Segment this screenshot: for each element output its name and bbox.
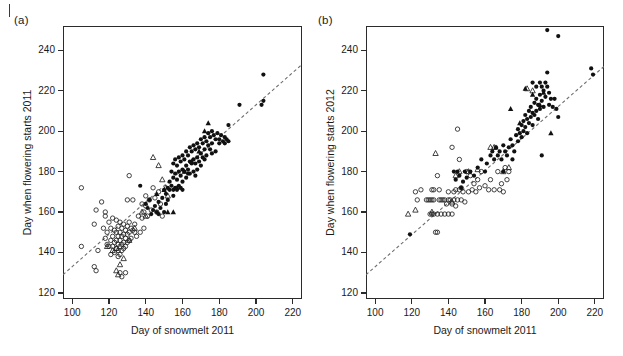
data-point-filled-circle xyxy=(226,123,230,127)
y-tick-label: 240 xyxy=(332,44,358,55)
data-point-filled-circle xyxy=(199,163,203,167)
data-point-filled-circle xyxy=(204,139,208,143)
y-tick xyxy=(58,211,63,212)
data-point-filled-circle xyxy=(501,170,505,174)
y-tick xyxy=(58,50,63,51)
data-point-filled-circle xyxy=(153,204,157,208)
x-tick-label: 220 xyxy=(583,307,607,318)
data-point-filled-circle xyxy=(521,129,525,133)
y-tick xyxy=(361,211,366,212)
data-point-open-circle xyxy=(455,127,459,131)
data-point-filled-circle xyxy=(499,157,503,161)
x-tick xyxy=(108,299,109,304)
data-point-open-circle xyxy=(127,173,131,177)
data-point-open-circle xyxy=(413,190,417,194)
data-point-filled-circle xyxy=(538,107,542,111)
data-point-filled-circle xyxy=(552,97,556,101)
data-point-open-triangle xyxy=(160,177,165,182)
data-point-open-circle xyxy=(96,248,100,252)
data-point-filled-circle xyxy=(503,149,507,153)
data-point-open-circle xyxy=(94,208,98,212)
data-point-filled-triangle xyxy=(171,209,176,214)
panel-a-y-axis-title: Day when flowering starts 2011 xyxy=(21,26,33,299)
data-point-open-circle xyxy=(488,177,492,181)
data-point-filled-circle xyxy=(543,81,547,85)
data-point-filled-circle xyxy=(531,81,535,85)
x-tick xyxy=(375,299,376,304)
x-tick-label: 200 xyxy=(244,307,268,318)
data-point-filled-circle xyxy=(261,72,265,76)
data-point-filled-circle xyxy=(215,131,219,135)
data-point-open-circle xyxy=(79,244,83,248)
data-point-filled-circle xyxy=(492,157,496,161)
data-point-filled-circle xyxy=(496,153,500,157)
data-point-filled-circle xyxy=(545,70,549,74)
data-point-filled-circle xyxy=(512,149,516,153)
y-tick-label: 140 xyxy=(29,246,55,257)
data-point-open-circle xyxy=(437,188,441,192)
data-point-filled-circle xyxy=(589,66,593,70)
data-point-open-circle xyxy=(123,271,127,275)
x-tick xyxy=(448,299,449,304)
y-tick-label: 180 xyxy=(332,166,358,177)
data-point-open-circle xyxy=(110,234,114,238)
data-point-filled-circle xyxy=(210,129,214,133)
data-point-filled-circle xyxy=(217,137,221,141)
x-tick xyxy=(484,299,485,304)
data-point-filled-circle xyxy=(193,147,197,151)
data-point-filled-circle xyxy=(452,170,456,174)
data-point-filled-circle xyxy=(534,85,538,89)
data-point-open-triangle xyxy=(156,163,161,168)
data-point-filled-circle xyxy=(157,212,161,216)
data-point-filled-circle xyxy=(534,109,538,113)
panel-b-y-axis-title: Day when flowering starts 2012 xyxy=(324,26,336,299)
data-point-filled-circle xyxy=(188,145,192,149)
data-point-filled-circle xyxy=(186,167,190,171)
data-point-filled-circle xyxy=(175,178,179,182)
data-point-open-circle xyxy=(474,190,478,194)
data-point-filled-circle xyxy=(195,141,199,145)
data-point-filled-circle xyxy=(525,131,529,135)
data-point-filled-circle xyxy=(507,145,511,149)
data-point-filled-triangle xyxy=(206,120,211,125)
x-tick-label: 140 xyxy=(134,307,158,318)
data-point-filled-circle xyxy=(476,165,480,169)
data-point-open-circle xyxy=(79,186,83,190)
data-point-open-circle xyxy=(151,186,155,190)
data-point-filled-circle xyxy=(261,99,265,103)
data-point-open-circle xyxy=(131,198,135,202)
data-point-filled-circle xyxy=(483,170,487,174)
data-point-filled-circle xyxy=(527,109,531,113)
y-tick-label: 200 xyxy=(29,125,55,136)
x-tick-label: 140 xyxy=(436,307,460,318)
data-point-filled-circle xyxy=(179,159,183,163)
data-point-filled-circle xyxy=(545,28,549,32)
x-tick-label: 180 xyxy=(207,307,231,318)
y-tick-label: 140 xyxy=(332,246,358,257)
data-point-filled-circle xyxy=(180,180,184,184)
data-point-filled-circle xyxy=(184,163,188,167)
data-point-filled-circle xyxy=(527,121,531,125)
panel-b: (b) Day of snowmelt 2011 Day when flower… xyxy=(310,0,623,356)
data-point-filled-circle xyxy=(520,135,524,139)
x-tick xyxy=(72,299,73,304)
data-point-filled-circle xyxy=(160,196,164,200)
panel-b-x-axis-title: Day of snowmelt 2011 xyxy=(366,324,604,336)
data-point-open-circle xyxy=(505,177,509,181)
y-tick-label: 120 xyxy=(332,287,358,298)
data-point-filled-circle xyxy=(510,157,514,161)
data-point-filled-circle xyxy=(536,117,540,121)
data-point-filled-circle xyxy=(538,81,542,85)
y-tick-label: 240 xyxy=(29,44,55,55)
panel-a-x-axis-title: Day of snowmelt 2011 xyxy=(63,324,302,336)
x-tick-label: 100 xyxy=(60,307,84,318)
y-tick-label: 160 xyxy=(29,206,55,217)
data-point-filled-circle xyxy=(158,206,162,210)
data-point-filled-circle xyxy=(175,163,179,167)
data-point-open-circle xyxy=(472,182,476,186)
y-tick xyxy=(58,292,63,293)
data-point-filled-circle xyxy=(213,149,217,153)
data-point-open-circle xyxy=(99,200,103,204)
data-point-open-circle xyxy=(94,268,98,272)
data-point-filled-circle xyxy=(193,174,197,178)
